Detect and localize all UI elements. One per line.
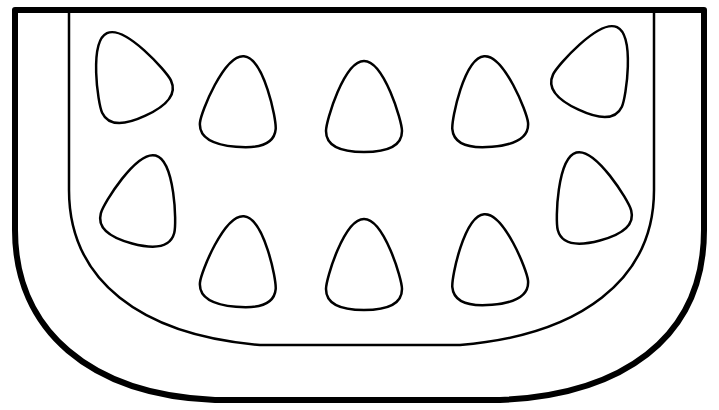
seed [198, 53, 282, 150]
outer-rind [15, 10, 704, 400]
seed [198, 213, 282, 310]
seed [540, 143, 637, 251]
seed [326, 219, 402, 310]
seed [544, 11, 651, 126]
seed [446, 211, 530, 308]
seed [73, 17, 180, 132]
seed [446, 53, 530, 150]
watermelon-drawing [0, 0, 719, 410]
seed [326, 61, 402, 152]
seed [95, 146, 192, 254]
